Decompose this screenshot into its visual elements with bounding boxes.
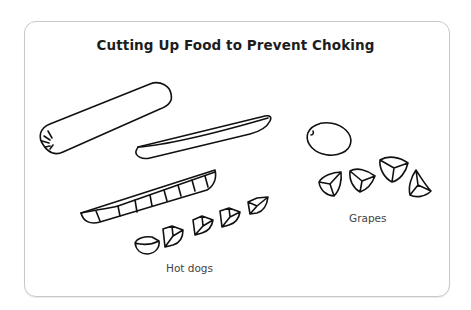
hot-dogs-label: Hot dogs (166, 262, 213, 274)
lengthwise-half-drawing (136, 116, 271, 159)
grape-quarters-drawing (319, 157, 431, 196)
whole-grape-drawing (305, 119, 354, 158)
illustration (0, 0, 471, 310)
grapes-label: Grapes (349, 212, 386, 224)
sliced-half-drawing (81, 170, 216, 223)
